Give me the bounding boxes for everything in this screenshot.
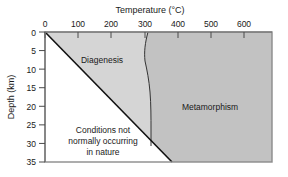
x-tick-label-300: 300: [138, 19, 152, 29]
figure-container: 0 100 200 300 400 500 600 Temperature (°…: [0, 0, 288, 177]
region-label-conditions-line1: Conditions not: [76, 125, 131, 135]
y-tick-label-0: 0: [31, 28, 36, 38]
x-tick-label-100: 100: [71, 19, 85, 29]
y-tick-label-10: 10: [27, 65, 37, 75]
y-tick-label-20: 20: [27, 102, 37, 112]
temperature-depth-metamorphism-chart: 0 100 200 300 400 500 600 Temperature (°…: [0, 0, 288, 177]
y-axis-title: Depth (km): [6, 75, 16, 120]
x-tick-label-400: 400: [171, 19, 185, 29]
x-tick-label-0: 0: [43, 19, 48, 29]
y-tick-label-30: 30: [27, 139, 37, 149]
region-label-metamorphism: Metamorphism: [182, 102, 238, 112]
y-tick-label-5: 5: [31, 46, 36, 56]
y-tick-label-15: 15: [27, 83, 37, 93]
region-label-diagenesis: Diagenesis: [81, 55, 123, 65]
x-axis-title: Temperature (°C): [115, 5, 184, 15]
y-tick-label-35: 35: [27, 157, 37, 167]
x-tick-label-600: 600: [237, 19, 251, 29]
x-tick-label-500: 500: [204, 19, 218, 29]
region-label-conditions-line2: normally occurring: [68, 136, 138, 146]
y-tick-label-25: 25: [27, 120, 37, 130]
region-label-conditions-line3: in nature: [86, 147, 119, 157]
x-tick-label-200: 200: [104, 19, 118, 29]
